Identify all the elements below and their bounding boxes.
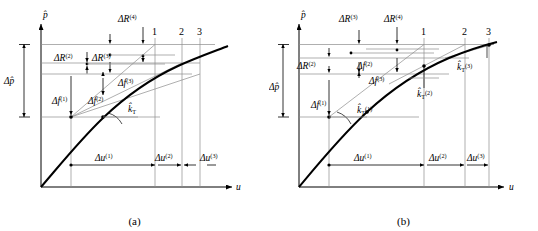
- label-delta-R3-a: ΔR(3): [91, 52, 111, 63]
- label-delta-p-b: Δp̂: [269, 82, 280, 92]
- label-delta-f2-b: Δf(2): [356, 60, 372, 71]
- label-delta-u1-a: Δu(1): [94, 152, 113, 163]
- label-delta-f2-a: Δf(2): [87, 95, 103, 106]
- caption-a: (a): [0, 215, 269, 227]
- panel-a-svg: p̂ u: [0, 0, 269, 231]
- x-axis-label-b: u: [509, 182, 514, 192]
- figure-root: p̂ u: [0, 0, 538, 231]
- panel-b-points: [327, 43, 491, 119]
- label-delta-u3-a: Δu(3): [199, 152, 218, 163]
- label-kT3-b: k̂T(3): [457, 60, 472, 73]
- label-delta-f3-a: Δf(3): [117, 77, 133, 88]
- label-kT-a: k̂T: [128, 102, 136, 115]
- label-delta-R2-b: ΔR(2): [296, 60, 316, 71]
- panel-b-tangent-lines: [329, 44, 494, 117]
- label-delta-u2-a: Δu(2): [154, 152, 173, 163]
- label-delta-u3-b: Δu(3): [466, 152, 485, 163]
- panel-b-svg: p̂ u: [269, 0, 538, 231]
- delta-p-bracket-a: [19, 45, 30, 118]
- y-axis-label-b: p̂: [300, 10, 306, 20]
- x-axis-label-a: u: [236, 182, 241, 192]
- label-delta-u1-b: Δu(1): [353, 152, 372, 163]
- delta-p-bracket-b: [278, 45, 289, 118]
- label-delta-R2-a: ΔR(2): [53, 52, 73, 63]
- marker-2-a: 2: [179, 26, 184, 37]
- panel-b: p̂ u: [269, 0, 538, 231]
- marker-3-a: 3: [197, 26, 202, 37]
- label-delta-R3-b: ΔR(3): [338, 13, 358, 24]
- panel-a-tangent-lines: [71, 45, 200, 118]
- label-kT1-b: k̂T(1): [357, 103, 372, 116]
- label-delta-f3-b: Δf(3): [368, 75, 384, 86]
- label-delta-u2-b: Δu(2): [428, 152, 447, 163]
- label-kT2-b: k̂T(2): [417, 87, 432, 100]
- label-delta-f1-a: Δf(1): [51, 95, 67, 106]
- caption-b: (b): [269, 215, 538, 227]
- panel-b-displacement-dims: [327, 163, 488, 166]
- panel-b-increment-arrows: [329, 72, 359, 115]
- marker-3-b: 3: [486, 26, 491, 37]
- marker-2-b: 2: [462, 26, 467, 37]
- panel-a-displacement-dims: [69, 163, 216, 166]
- panel-a: p̂ u: [0, 0, 269, 231]
- panel-b-short-guides: [351, 49, 439, 53]
- marker-1-a: 1: [152, 26, 157, 37]
- y-axis-label-a: p̂: [42, 10, 48, 20]
- label-delta-R4-b: ΔR(4): [383, 13, 403, 24]
- marker-1-b: 1: [421, 26, 426, 37]
- label-delta-p-a: Δp̂: [3, 76, 15, 86]
- label-delta-f1-b: Δf(1): [310, 99, 326, 110]
- label-delta-R4-a: ΔR(4): [117, 13, 137, 24]
- panel-a-residual-arrows: [87, 27, 143, 74]
